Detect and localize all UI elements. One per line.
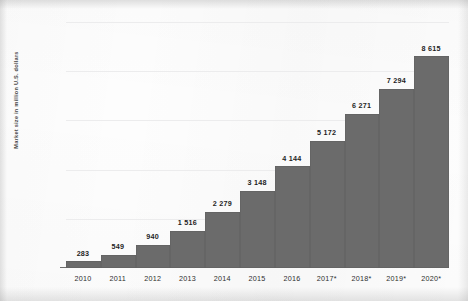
scan-edge-left: [0, 0, 7, 301]
bar[interactable]: [275, 166, 310, 268]
scan-edge-bottom: [0, 287, 468, 301]
bar[interactable]: [379, 89, 414, 268]
bar-group[interactable]: 7 2942019*: [379, 22, 414, 268]
bar[interactable]: [136, 245, 171, 268]
bar-group[interactable]: 5492011: [101, 22, 136, 268]
x-axis-tick-label: 2020*: [405, 274, 457, 283]
scan-edge-right: [458, 0, 468, 301]
bar-group[interactable]: 8 6152020*: [414, 22, 449, 268]
bar-group[interactable]: 1 5162013: [170, 22, 205, 268]
y-axis-title: Market size in million U.S. dollars: [13, 13, 19, 188]
bar-group[interactable]: 4 1442016: [275, 22, 310, 268]
bar[interactable]: [310, 141, 345, 268]
bar[interactable]: [345, 114, 380, 268]
bar-value-label: 8 615: [405, 44, 457, 53]
bar[interactable]: [170, 231, 205, 268]
bar[interactable]: [414, 56, 449, 268]
bar-series: 2832010549201194020121 51620132 27920143…: [66, 22, 449, 268]
scan-edge-top: [0, 0, 468, 9]
bar[interactable]: [240, 191, 275, 268]
bar-group[interactable]: 9402012: [136, 22, 171, 268]
chart-screenshot: Market size in million U.S. dollars 02 0…: [0, 0, 468, 301]
bar-group[interactable]: 3 1482015: [240, 22, 275, 268]
bar[interactable]: [205, 212, 240, 268]
bar[interactable]: [101, 255, 136, 269]
bar[interactable]: [66, 261, 101, 268]
bar-group[interactable]: 6 2712018*: [345, 22, 380, 268]
bar-group[interactable]: 5 1722017*: [310, 22, 345, 268]
plot-area: 02 0004 0006 0008 00010 000 283201054920…: [66, 22, 449, 268]
bar-group[interactable]: 2 2792014: [205, 22, 240, 268]
bar-group[interactable]: 2832010: [66, 22, 101, 268]
